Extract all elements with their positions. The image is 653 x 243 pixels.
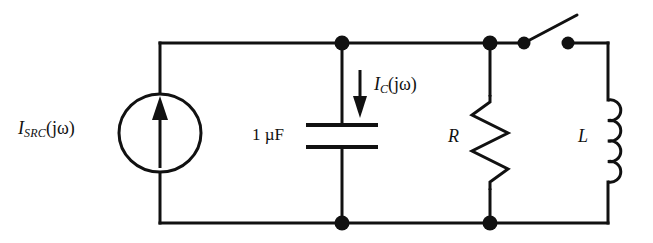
node-dot-top-resistor — [483, 36, 498, 51]
capacitor-current-label-subscript: C — [380, 82, 388, 96]
inductor-symbol — [608, 100, 621, 183]
switch-symbol[interactable] — [518, 15, 578, 50]
current-source-label-argument: (jω) — [46, 118, 75, 138]
capacitor-current-label: IC(jω) — [374, 75, 417, 95]
inductor-label: L — [578, 127, 588, 145]
resistor-label: R — [448, 127, 459, 145]
capacitor-value-label: 1 µF — [252, 126, 284, 143]
capacitor-current-arrow — [353, 70, 367, 118]
capacitor-current-label-argument: (jω) — [388, 74, 417, 94]
junction-dots — [335, 36, 498, 231]
switch-pivot-terminal-dot — [518, 37, 531, 50]
circuit-schematic-svg — [0, 0, 653, 243]
node-dot-bottom-capacitor — [335, 216, 350, 231]
capacitor-current-arrow-head — [353, 96, 367, 118]
node-dot-top-capacitor — [335, 36, 350, 51]
current-source-label: ISRC(jω) — [18, 119, 75, 139]
current-source-symbol — [119, 94, 201, 172]
switch-open-terminal-dot — [562, 37, 575, 50]
capacitor-symbol — [306, 125, 378, 147]
node-dot-bottom-resistor — [483, 216, 498, 231]
resistor-symbol — [472, 95, 508, 190]
current-source-label-subscript: SRC — [24, 126, 46, 140]
circuit-diagram: ISRC(jω) 1 µF IC(jω) R L — [0, 0, 653, 243]
